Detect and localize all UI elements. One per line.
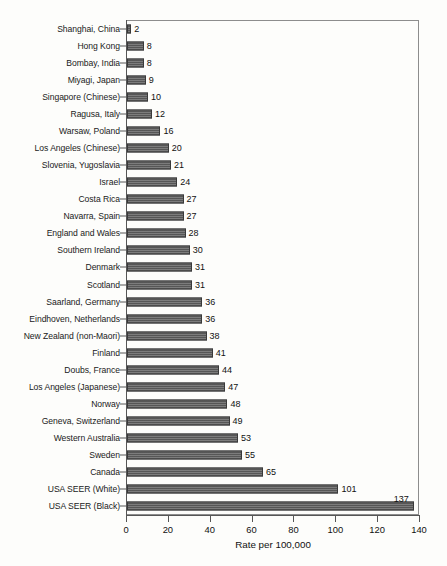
category-label: USA SEER (Black) — [49, 501, 120, 511]
category-tick-mark — [120, 148, 126, 149]
x-tick-label: 80 — [288, 524, 298, 535]
bar — [127, 468, 263, 477]
category-label: Hong Kong — [77, 41, 120, 51]
bar-row: New Zealand (non-Maori)38 — [0, 327, 447, 344]
bar-row: Ragusa, Italy12 — [0, 105, 447, 122]
bar-row: Denmark31 — [0, 259, 447, 276]
category-tick-mark — [120, 284, 126, 285]
bar-value-label: 48 — [230, 399, 240, 409]
x-tick-label: 60 — [246, 524, 256, 535]
category-tick-mark — [120, 96, 126, 97]
x-tick-mark — [210, 516, 211, 522]
category-tick-mark — [120, 45, 126, 46]
x-tick-label: 0 — [123, 524, 128, 535]
bar-row: Sweden55 — [0, 447, 447, 464]
bar-value-label: 28 — [189, 228, 199, 238]
category-label: Denmark — [85, 262, 120, 272]
bar — [127, 417, 230, 426]
bar-value-label: 137 — [394, 494, 409, 504]
bar-row: Warsaw, Poland16 — [0, 122, 447, 139]
bar-row: Israel24 — [0, 174, 447, 191]
bar — [127, 178, 177, 187]
category-label: Navarra, Spain — [63, 211, 120, 221]
category-tick-mark — [120, 79, 126, 80]
category-tick-mark — [120, 421, 126, 422]
bar-row: Norway48 — [0, 396, 447, 413]
bar — [127, 280, 192, 289]
category-tick-mark — [120, 267, 126, 268]
category-label: Southern Ireland — [57, 245, 120, 255]
x-tick-mark — [335, 516, 336, 522]
bar-row: Los Angeles (Japanese)47 — [0, 378, 447, 395]
bar — [127, 434, 238, 443]
category-label: Los Angeles (Japanese) — [29, 382, 120, 392]
x-axis-line — [126, 515, 420, 516]
category-tick-mark — [120, 386, 126, 387]
category-tick-mark — [120, 472, 126, 473]
bar-row: Eindhoven, Netherlands36 — [0, 310, 447, 327]
category-tick-mark — [120, 369, 126, 370]
category-tick-mark — [120, 233, 126, 234]
x-tick-label: 20 — [163, 524, 173, 535]
bar-row: Southern Ireland30 — [0, 242, 447, 259]
bar-row: Miyagi, Japan9 — [0, 71, 447, 88]
bar-row: USA SEER (Black)137 — [0, 498, 447, 515]
bar-row: Finland41 — [0, 344, 447, 361]
bar — [127, 109, 152, 118]
bar-row: Bombay, India8 — [0, 54, 447, 71]
category-tick-mark — [120, 301, 126, 302]
category-tick-mark — [120, 438, 126, 439]
bar — [127, 365, 219, 374]
category-tick-mark — [120, 130, 126, 131]
bar-value-label: 31 — [195, 262, 205, 272]
bar — [127, 348, 213, 357]
bar-value-label: 21 — [174, 160, 184, 170]
bar-value-label: 36 — [205, 297, 215, 307]
category-tick-mark — [120, 335, 126, 336]
x-tick-label: 100 — [327, 524, 343, 535]
bar — [127, 331, 207, 340]
category-tick-mark — [120, 28, 126, 29]
x-axis-title: Rate per 100,000 — [235, 539, 311, 550]
category-label: England and Wales — [47, 228, 120, 238]
bar — [127, 382, 225, 391]
category-label: Western Australia — [54, 433, 120, 443]
bar — [127, 41, 144, 50]
category-label: Ragusa, Italy — [70, 109, 120, 119]
category-tick-mark — [120, 404, 126, 405]
bar-value-label: 8 — [147, 41, 152, 51]
category-tick-mark — [120, 182, 126, 183]
bar-row: Los Angeles (Chinese)20 — [0, 139, 447, 156]
bar-value-label: 8 — [147, 58, 152, 68]
chart-page: Shanghai, China2Hong Kong8Bombay, India8… — [0, 0, 447, 566]
bar — [127, 212, 184, 221]
bar — [127, 144, 169, 153]
bar-value-label: 27 — [187, 194, 197, 204]
bar-value-label: 49 — [233, 416, 243, 426]
category-label: Costa Rica — [78, 194, 120, 204]
bar — [127, 75, 146, 84]
category-label: New Zealand (non-Maori) — [24, 331, 120, 341]
bar-value-label: 20 — [172, 143, 182, 153]
x-tick-mark — [419, 516, 420, 522]
bar-value-label: 47 — [228, 382, 238, 392]
bar-value-label: 24 — [180, 177, 190, 187]
bar-value-label: 44 — [222, 365, 232, 375]
bar — [127, 451, 242, 460]
category-tick-mark — [120, 506, 126, 507]
category-tick-mark — [120, 318, 126, 319]
bar-value-label: 38 — [210, 331, 220, 341]
bar-row: Singapore (Chinese)10 — [0, 88, 447, 105]
category-label: Finland — [92, 348, 120, 358]
bar-value-label: 9 — [149, 75, 154, 85]
category-tick-mark — [120, 113, 126, 114]
category-label: Doubs, France — [64, 365, 120, 375]
category-label: Los Angeles (Chinese) — [35, 143, 120, 153]
bar-row: Doubs, France44 — [0, 361, 447, 378]
bar-value-label: 10 — [151, 92, 161, 102]
category-tick-mark — [120, 62, 126, 63]
bar-row: Canada65 — [0, 464, 447, 481]
bar-value-label: 16 — [163, 126, 173, 136]
x-tick-label: 120 — [369, 524, 385, 535]
category-tick-mark — [120, 352, 126, 353]
